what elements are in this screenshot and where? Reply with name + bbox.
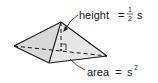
area-label: area = s 2 bbox=[87, 64, 138, 78]
height-label: height = 1 2 s bbox=[79, 6, 143, 22]
height-fraction-denominator: 2 bbox=[128, 15, 132, 22]
area-label-equals: = bbox=[115, 66, 121, 78]
height-fraction-numerator: 1 bbox=[128, 6, 132, 13]
height-label-name: height bbox=[79, 9, 109, 21]
height-label-variable: s bbox=[137, 9, 143, 21]
base-center-point bbox=[60, 49, 63, 52]
area-label-variable: s bbox=[127, 66, 133, 78]
area-label-name: area bbox=[87, 66, 110, 78]
square-pyramid-diagram: height = 1 2 s area = s 2 bbox=[0, 0, 158, 83]
height-leader-line bbox=[66, 15, 78, 28]
height-label-equals: = bbox=[118, 9, 124, 21]
area-label-exponent: 2 bbox=[134, 64, 138, 71]
